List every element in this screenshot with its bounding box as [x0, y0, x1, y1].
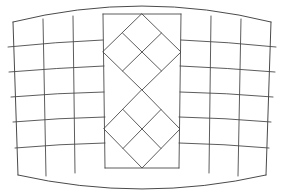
figure-root: Curved fan-shaped geometric tiling patte… [0, 0, 285, 192]
right-grid [179, 14, 276, 176]
lower-large-diamond [104, 90, 180, 168]
left-grid-vline-2 [73, 16, 75, 173]
right-grid-vline-2 [238, 19, 241, 176]
left-grid-hline-2 [9, 66, 104, 72]
left-grid-inner-edge [103, 14, 105, 168]
right-grid-hline-4 [179, 117, 271, 122]
bottom-arc-edge [18, 175, 266, 189]
right-edge [266, 22, 271, 175]
right-grid-hline-2 [180, 66, 275, 72]
left-grid-hline-4 [13, 117, 105, 122]
left-grid-hline-1 [8, 40, 103, 47]
left-edge [13, 22, 18, 175]
right-grid-hline-5 [179, 143, 269, 148]
arc-panel-outline [13, 6, 271, 189]
right-grid-inner-edge [179, 14, 181, 168]
left-grid-hline-3 [11, 92, 104, 97]
right-grid-hline-3 [180, 92, 273, 97]
geometric-pattern-figure: Curved fan-shaped geometric tiling patte… [0, 0, 285, 192]
left-grid-vline-1 [43, 19, 46, 176]
right-grid-hline-1 [181, 40, 276, 47]
upper-large-diamond [103, 14, 181, 90]
left-grid-hline-5 [15, 143, 105, 148]
right-grid-vline-1 [209, 16, 211, 173]
center-diamond-band [103, 14, 181, 168]
left-grid [8, 14, 105, 176]
